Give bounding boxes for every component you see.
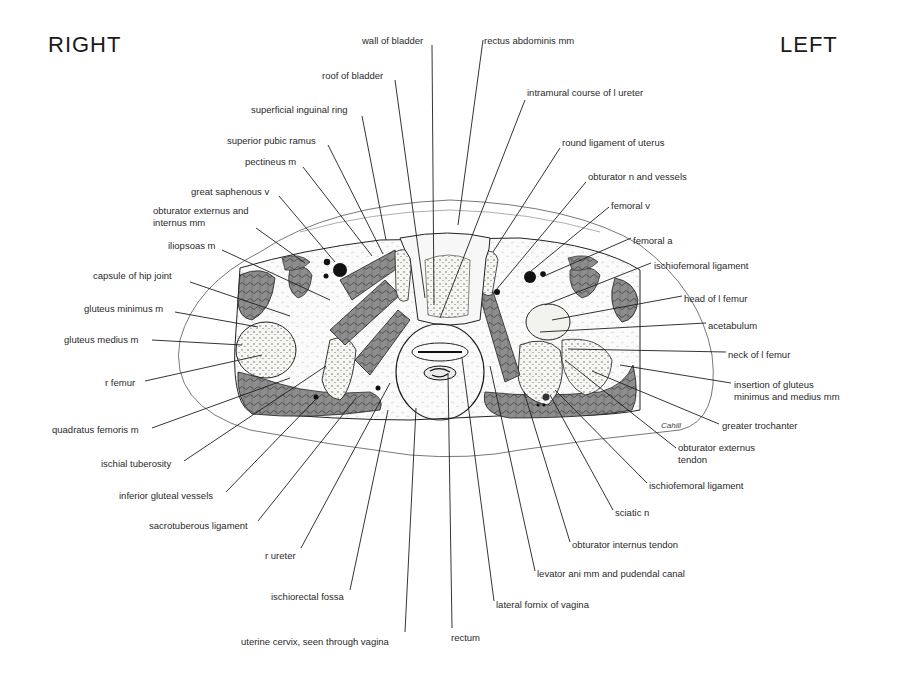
label-ischiofemoral-ligament-lower: ischiofemoral ligament [649,480,744,492]
label-superficial-inguinal-ring: superficial inguinal ring [251,104,348,116]
label-gluteus-minimus-m: gluteus minimus m [84,303,163,315]
label-roof-of-bladder: roof of bladder [322,70,383,82]
label-r-ureter: r ureter [265,550,296,562]
label-levator-ani-mm-and-pudendal-canal: levator ani mm and pudendal canal [537,568,685,580]
label-r-femur: r femur [105,377,135,389]
label-sciatic-n: sciatic n [615,507,649,519]
label-acetabulum: acetabulum [708,320,757,332]
label-greater-trochanter: greater trochanter [722,420,798,432]
label-insertion-of-gluteus-minimus-and-medius-mm: insertion of gluteus minimus and medius … [734,379,840,403]
label-ischial-tuberosity: ischial tuberosity [101,458,171,470]
label-femoral-a: femoral a [633,235,673,247]
label-obturator-externus-tendon: obturator externus tendon [678,442,755,466]
label-ischiorectal-fossa: ischiorectal fossa [271,591,344,603]
label-rectus-abdominis-mm: rectus abdominis mm [484,35,574,47]
label-femoral-v: femoral v [611,200,650,212]
label-obturator-internus-tendon: obturator internus tendon [572,539,678,551]
artist-signature: Cahill [661,421,681,430]
label-intramural-course-of-l-ureter: intramural course of l ureter [527,87,643,99]
label-round-ligament-of-uterus: round ligament of uterus [562,137,664,149]
label-ischiofemoral-ligament-upper: ischiofemoral ligament [654,260,749,272]
label-pectineus-m: pectineus m [245,156,296,168]
label-iliopsoas-m: iliopsoas m [168,240,216,252]
label-great-saphenous-v: great saphenous v [191,186,269,198]
label-lateral-fornix-of-vagina: lateral fornix of vagina [496,599,589,611]
label-rectum: rectum [451,632,480,644]
label-wall-of-bladder: wall of bladder [362,35,423,47]
label-capsule-of-hip-joint: capsule of hip joint [93,270,172,282]
label-uterine-cervix-seen-through-vagina: uterine cervix, seen through vagina [241,636,389,648]
label-inferior-gluteal-vessels: inferior gluteal vessels [119,490,213,502]
label-obturator-n-and-vessels: obturator n and vessels [588,171,687,183]
label-obturator-externus-and-internus-mm: obturator externus and internus mm [153,205,249,229]
label-sacrotuberous-ligament: sacrotuberous ligament [149,520,248,532]
label-head-of-l-femur: head of l femur [684,293,747,305]
label-quadratus-femoris-m: quadratus femoris m [52,424,139,436]
label-gluteus-medius-m: gluteus medius m [64,334,138,346]
label-superior-pubic-ramus: superior pubic ramus [227,135,316,147]
label-neck-of-l-femur: neck of l femur [728,349,790,361]
